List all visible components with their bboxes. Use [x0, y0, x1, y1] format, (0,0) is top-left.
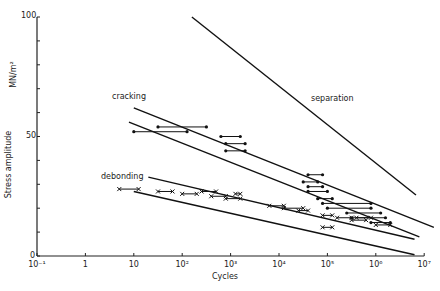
data-point-dot: [369, 202, 372, 205]
data-point-dot: [306, 173, 309, 176]
x-tick-label: 10³: [224, 260, 237, 269]
data-point-dot: [379, 211, 382, 214]
y-tick-50: 50: [26, 131, 36, 140]
y-tick-0: 0: [30, 251, 35, 260]
y-axis-unit: MN/m²: [9, 60, 18, 90]
data-point-dot: [316, 180, 319, 183]
data-point-dot: [345, 211, 348, 214]
x-tick-label: 10: [129, 260, 139, 269]
x-tick-label: 10²: [176, 260, 189, 269]
data-point-dot: [306, 185, 309, 188]
label-cracking: cracking: [112, 92, 146, 101]
trend-line-separation: [192, 17, 416, 195]
y-tick-100: 100: [21, 11, 36, 20]
data-point-dot: [224, 142, 227, 145]
x-axis-title: Cycles: [212, 272, 238, 281]
data-point-dot: [321, 202, 324, 205]
data-point-dot: [244, 142, 247, 145]
data-point-dot: [185, 130, 188, 133]
y-axis-title: Stress amplitude: [4, 125, 13, 205]
data-point-dot: [369, 221, 372, 224]
x-tick-label: 10⁵: [321, 260, 334, 269]
trend-line-cracking-lower-bound: [129, 122, 419, 237]
label-separation: separation: [311, 94, 354, 103]
data-point-dot: [302, 180, 305, 183]
x-tick-label: 10⁻¹: [28, 260, 46, 269]
label-debonding: debonding: [101, 172, 144, 181]
x-tick-label: 10⁶: [369, 260, 382, 269]
x-tick-label: 10⁴: [272, 260, 285, 269]
data-point-dot: [224, 149, 227, 152]
data-point-dot: [205, 125, 208, 128]
data-point-dot: [384, 216, 387, 219]
data-point-dot: [326, 207, 329, 210]
data-point-dot: [244, 149, 247, 152]
x-tick-label: 10⁷: [418, 260, 431, 269]
data-point-dot: [316, 197, 319, 200]
trend-line-debonding-upper-bound: [148, 177, 414, 239]
data-point-dot: [326, 190, 329, 193]
data-point-dot: [321, 185, 324, 188]
x-tick-label: 1: [83, 260, 88, 269]
data-point-dot: [219, 135, 222, 138]
chart-canvas: 10⁻¹11010²10³10⁴10⁵10⁶10⁷: [0, 0, 440, 291]
data-point-dot: [369, 207, 372, 210]
data-point-dot: [156, 125, 159, 128]
data-point-dot: [331, 197, 334, 200]
data-point-dot: [239, 135, 242, 138]
data-point-dot: [132, 130, 135, 133]
data-point-dot: [306, 190, 309, 193]
data-point-dot: [321, 173, 324, 176]
